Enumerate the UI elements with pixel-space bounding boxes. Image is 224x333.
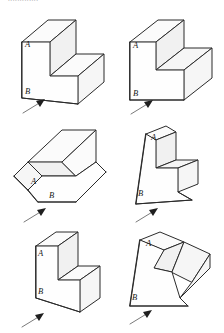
figure-2-view-arrow — [131, 100, 153, 114]
figure-2-label-b: B — [133, 88, 138, 98]
figure-1-label-b: B — [25, 86, 30, 96]
figure-3-label-b: B — [49, 190, 54, 200]
figure-6-view-arrow — [130, 310, 152, 324]
figure-2-label-a: A — [132, 40, 139, 50]
figure-3: A B — [4, 116, 116, 223]
figure-4-label-a: A — [150, 132, 157, 142]
figure-3-view-arrow — [24, 208, 46, 222]
figure-4: A B — [114, 116, 224, 223]
figure-6-label-a: A — [145, 238, 152, 248]
figure-2: A B — [114, 8, 224, 115]
figure-4-label-b: B — [138, 188, 143, 198]
figure-5-view-arrow — [22, 313, 44, 327]
figure-5-label-a: A — [37, 248, 44, 258]
figure-1-label-a: A — [24, 39, 31, 49]
figure-grid: A B A — [0, 8, 224, 333]
figure-6-label-b: B — [132, 292, 137, 302]
figure-5: A B — [4, 224, 116, 331]
figure-sheet: ............. A B — [0, 0, 224, 333]
cropped-header-text: ............. — [8, 0, 118, 3]
figure-5-label-b: B — [38, 286, 43, 296]
figure-1: A B — [4, 8, 116, 115]
figure-1-view-arrow — [23, 99, 45, 113]
figure-3-label-a: A — [30, 176, 37, 186]
figure-4-view-arrow — [136, 208, 158, 222]
figure-6: A B — [114, 224, 224, 331]
